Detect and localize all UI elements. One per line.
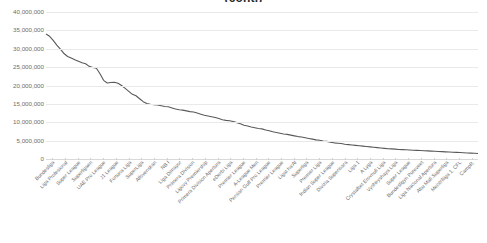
y-axis-tick-label: 20,000,000 [0, 82, 44, 88]
plot-area [46, 12, 478, 159]
gridline [46, 30, 478, 31]
series-line [46, 34, 478, 153]
y-axis-tick-labels: 40,000,00035,000,00030,000,00025,000,000… [0, 12, 44, 159]
x-axis-tick-labels: BundesligaLiga ProfesionalSuper LeagueSu… [46, 160, 478, 243]
chart-container: (cont.) 40,000,00035,000,00030,000,00025… [0, 0, 487, 243]
y-axis-tick-label: 35,000,000 [0, 27, 44, 33]
y-axis-tick-label: 40,000,000 [0, 9, 44, 15]
gridline [46, 141, 478, 142]
gridline [46, 122, 478, 123]
gridline [46, 12, 478, 13]
gridline [46, 67, 478, 68]
y-axis-tick-label: 0 [0, 156, 44, 162]
gridline [46, 49, 478, 50]
gridline [46, 104, 478, 105]
y-axis-tick-label: 15,000,000 [0, 101, 44, 107]
y-axis-tick-label: 25,000,000 [0, 64, 44, 70]
y-axis-tick-label: 5,000,000 [0, 138, 44, 144]
y-axis-tick-label: 10,000,000 [0, 119, 44, 125]
gridline [46, 86, 478, 87]
y-axis-tick-label: 30,000,000 [0, 46, 44, 52]
chart-title: (cont.) [0, 0, 487, 2]
